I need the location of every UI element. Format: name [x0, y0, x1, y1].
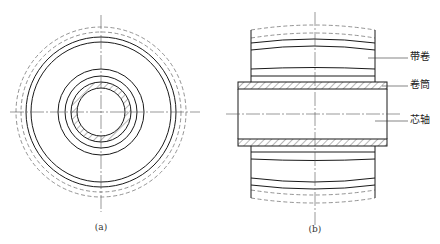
sleeve-bottom-wall	[238, 139, 387, 146]
label-mandrel: 芯轴	[410, 115, 430, 125]
figure-b-side-view	[226, 12, 408, 225]
caption-b: (b)	[309, 225, 322, 234]
diagram-canvas	[0, 0, 440, 244]
figure-a-end-view	[10, 15, 200, 212]
sleeve-top-wall	[238, 82, 387, 89]
label-sleeve: 卷筒	[410, 80, 430, 90]
upper-coil-section	[251, 25, 375, 82]
caption-a: (a)	[95, 223, 107, 232]
label-coil: 带卷	[410, 52, 430, 62]
lower-coil-section	[251, 146, 375, 203]
